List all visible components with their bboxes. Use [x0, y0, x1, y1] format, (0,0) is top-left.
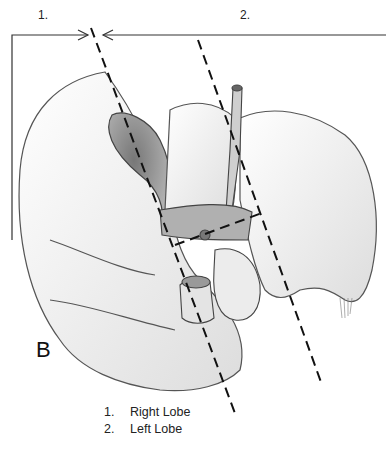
- legend-item-right-lobe: 1. Right Lobe: [104, 404, 190, 421]
- legend-text: Left Lobe: [130, 421, 182, 438]
- legend-text: Right Lobe: [130, 404, 190, 421]
- legend-number: 2.: [104, 421, 130, 438]
- legend-item-left-lobe: 2. Left Lobe: [104, 421, 190, 438]
- legend-number: 1.: [104, 404, 130, 421]
- left-lobe-shape: [165, 103, 376, 301]
- legend: 1. Right Lobe 2. Left Lobe: [104, 404, 190, 438]
- panel-label: B: [36, 337, 51, 363]
- liver-diagram: 1. 2. B 1. Right Lobe 2. Left Lobe: [0, 0, 386, 450]
- division-label-2: 2.: [240, 8, 250, 22]
- division-label-1: 1.: [38, 8, 48, 22]
- liver-illustration: [0, 0, 386, 450]
